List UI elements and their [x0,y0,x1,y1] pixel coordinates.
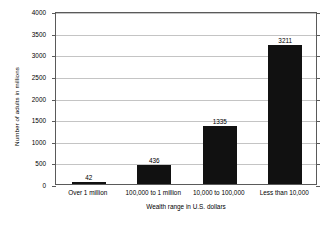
bar-chart: Number of adults in millions 42436133532… [0,0,328,230]
axis-tick [316,13,320,14]
bar [203,126,237,184]
x-axis-tick-label: 10,000 to 100,000 [193,189,245,196]
bar-item: 42 [72,182,106,184]
y-axis-tick-label: 1000 [0,138,46,145]
y-axis-tick-label: 3000 [0,52,46,59]
x-axis-tick-label: 100,000 to 1 million [126,189,181,196]
axis-tick [316,164,320,165]
x-axis-tick-label: Over 1 million [68,189,107,196]
axis-tick [316,35,320,36]
y-axis-tick-label: 3500 [0,30,46,37]
bar [137,165,171,184]
bar-value-label: 1335 [213,118,227,125]
axis-tick [316,100,320,101]
y-axis-tick-label: 0 [0,182,46,189]
plot-area: 4243613353211 [55,12,317,185]
y-axis-tick-label: 1500 [0,117,46,124]
x-axis-title: Wealth range in U.S. dollars [55,203,317,210]
bar-item: 1335 [203,126,237,184]
bar-value-label: 3211 [278,37,292,44]
y-axis-tick-label: 500 [0,160,46,167]
y-axis-tick-label: 2000 [0,95,46,102]
axis-tick [316,78,320,79]
bar [72,182,106,184]
bar-value-label: 436 [149,157,160,164]
axis-tick [52,186,56,187]
bar-item: 436 [137,165,171,184]
y-axis-tick-label: 2500 [0,73,46,80]
axis-tick [316,56,320,57]
axis-tick [316,121,320,122]
axis-tick [316,143,320,144]
y-axis-tick-label: 4000 [0,9,46,16]
axis-tick [316,186,320,187]
bar-value-label: 42 [85,174,92,181]
bar-item: 3211 [268,45,302,184]
bar-series: 4243613353211 [56,13,316,184]
bar [268,45,302,184]
x-axis-tick-label: Less than 10,000 [260,189,309,196]
